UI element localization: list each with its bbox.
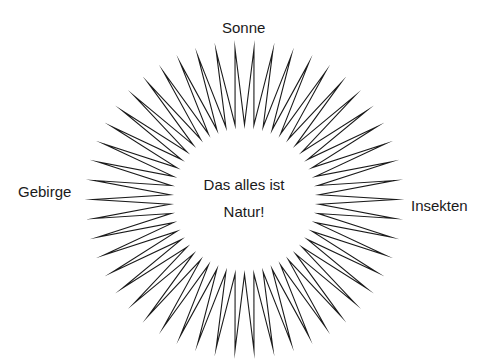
center-text-line-1: Das alles ist	[164, 171, 324, 198]
center-text: Das alles ist Natur!	[164, 171, 324, 225]
center-text-line-2: Natur!	[164, 198, 324, 225]
label-insekten: Insekten	[411, 197, 468, 214]
label-gebirge: Gebirge	[18, 183, 71, 200]
label-sonne: Sonne	[222, 19, 265, 36]
